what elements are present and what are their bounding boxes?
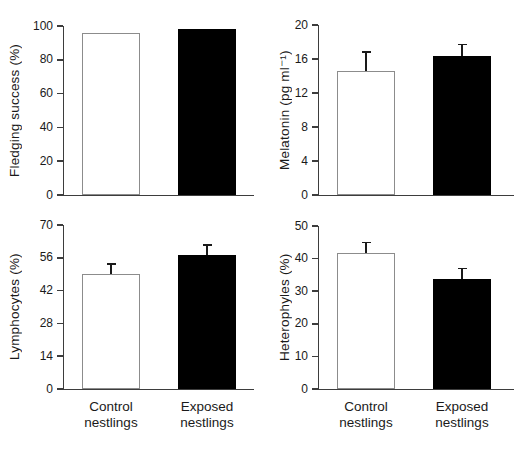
y-axis-title: Heterophyles (%) <box>277 226 292 389</box>
heterophyles-chart: Heterophyles (%) 01020304050Control nest… <box>264 218 529 449</box>
x-axis-label: Exposed nestlings <box>165 399 249 431</box>
exposed-bar <box>178 255 236 389</box>
y-tick <box>57 93 63 95</box>
y-tick <box>57 25 63 27</box>
error-bar <box>206 245 208 255</box>
melatonin-chart: Melatonin (pg ml⁻¹) 048121620 <box>264 0 529 218</box>
error-bar <box>365 242 367 253</box>
y-tick-label: 80 <box>19 53 53 66</box>
y-tick <box>312 126 318 128</box>
y-tick <box>312 225 318 227</box>
error-bar-cap <box>458 268 467 270</box>
control-bar <box>337 71 395 195</box>
y-tick-label: 12 <box>274 87 308 100</box>
error-bar <box>461 268 463 279</box>
y-tick-label: 50 <box>274 220 308 233</box>
y-tick-label: 100 <box>19 20 53 33</box>
lymphocytes-chart: Lymphocytes (%) 01428425670Control nestl… <box>0 218 264 449</box>
y-tick <box>312 194 318 196</box>
y-tick <box>312 290 318 292</box>
control-bar <box>82 274 140 389</box>
y-tick <box>57 257 63 259</box>
y-tick <box>57 388 63 390</box>
y-tick <box>312 92 318 94</box>
y-tick-label: 40 <box>19 121 53 134</box>
y-tick-label: 60 <box>19 87 53 100</box>
y-tick <box>57 290 63 292</box>
fledging-success-chart: Fledging success (%) 020406080100 <box>0 0 264 218</box>
exposed-bar <box>178 29 236 195</box>
y-tick <box>312 58 318 60</box>
y-tick-label: 0 <box>19 383 53 396</box>
y-tick <box>57 160 63 162</box>
y-tick-label: 0 <box>19 189 53 202</box>
y-tick-label: 4 <box>274 155 308 168</box>
error-bar-cap <box>362 242 371 244</box>
y-tick-label: 42 <box>19 284 53 297</box>
bar-chart-figure: Fledging success (%) 020406080100 Melato… <box>0 0 529 449</box>
y-tick-label: 0 <box>274 189 308 202</box>
y-tick <box>312 258 318 260</box>
y-tick <box>57 59 63 61</box>
exposed-bar <box>433 279 491 389</box>
y-tick-label: 30 <box>274 285 308 298</box>
y-tick <box>57 355 63 357</box>
y-tick-label: 10 <box>274 350 308 363</box>
y-tick-label: 20 <box>274 19 308 32</box>
error-bar-cap <box>107 263 116 265</box>
y-tick <box>312 388 318 390</box>
error-bar <box>110 264 112 274</box>
y-axis-title: Fledging success (%) <box>7 26 22 195</box>
plot-area: 048121620 <box>318 25 514 196</box>
control-bar <box>337 253 395 389</box>
x-axis-label: Exposed nestlings <box>420 399 504 431</box>
y-tick-label: 20 <box>19 155 53 168</box>
y-tick <box>312 356 318 358</box>
control-bar <box>82 33 140 195</box>
exposed-bar <box>433 56 491 195</box>
y-tick <box>312 24 318 26</box>
y-tick <box>312 323 318 325</box>
y-tick <box>312 160 318 162</box>
error-bar <box>365 52 367 71</box>
y-tick <box>57 224 63 226</box>
error-bar-cap <box>458 44 467 46</box>
error-bar-cap <box>362 51 371 53</box>
error-bar <box>461 45 463 57</box>
y-tick <box>57 127 63 129</box>
y-tick-label: 14 <box>19 350 53 363</box>
y-tick-label: 70 <box>19 219 53 232</box>
y-tick-label: 28 <box>19 317 53 330</box>
x-axis-label: Control nestlings <box>324 399 408 431</box>
y-axis-title: Lymphocytes (%) <box>7 225 22 389</box>
plot-area: 01020304050Control nestlingsExposed nest… <box>318 226 514 390</box>
plot-area: 01428425670Control nestlingsExposed nest… <box>63 225 254 390</box>
y-tick-label: 56 <box>19 251 53 264</box>
y-tick <box>57 323 63 325</box>
y-tick-label: 16 <box>274 53 308 66</box>
plot-area: 020406080100 <box>63 26 254 196</box>
x-axis-label: Control nestlings <box>69 399 153 431</box>
y-tick-label: 20 <box>274 317 308 330</box>
error-bar-cap <box>203 244 212 246</box>
y-tick <box>57 194 63 196</box>
y-axis-title: Melatonin (pg ml⁻¹) <box>277 25 293 195</box>
y-tick-label: 0 <box>274 383 308 396</box>
y-tick-label: 8 <box>274 121 308 134</box>
y-tick-label: 40 <box>274 252 308 265</box>
